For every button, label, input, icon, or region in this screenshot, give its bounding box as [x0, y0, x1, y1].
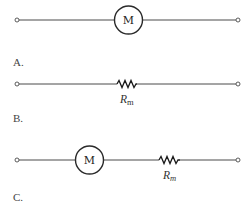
motor-c-letter: M — [84, 154, 95, 167]
circuit-option-c: M Rm C. — [13, 146, 240, 203]
terminal-c-right-icon — [236, 158, 240, 162]
circuit-option-b: Rm B. — [13, 81, 240, 125]
motor-a-icon: M — [115, 6, 143, 34]
terminal-a-left-icon — [15, 18, 19, 22]
terminal-c-left-icon — [15, 158, 19, 162]
resistor-c-label: Rm — [162, 169, 176, 183]
resistor-b-label: Rm — [119, 93, 134, 107]
resistor-b-icon — [117, 81, 137, 88]
option-c-label: C. — [13, 191, 23, 203]
option-a-label: A. — [13, 56, 24, 68]
motor-c-icon: M — [76, 146, 104, 174]
terminal-b-right-icon — [236, 82, 240, 86]
option-b-label: B. — [13, 112, 23, 124]
terminal-b-left-icon — [15, 82, 19, 86]
circuit-options-diagram: M A. Rm B. M Rm C. — [0, 0, 252, 209]
resistor-c-icon — [159, 157, 180, 164]
circuit-option-a: M A. — [13, 6, 240, 68]
motor-a-letter: M — [123, 14, 134, 27]
terminal-a-right-icon — [236, 18, 240, 22]
